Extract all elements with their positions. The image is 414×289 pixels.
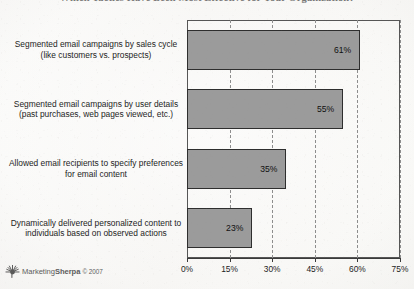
x-axis-tick bbox=[272, 258, 273, 262]
x-axis-tick bbox=[187, 258, 188, 262]
x-axis-tick-label: 30% bbox=[264, 264, 281, 274]
x-axis-tick bbox=[315, 258, 316, 262]
bar: 61% bbox=[187, 30, 360, 70]
x-axis-tick-label: 15% bbox=[221, 264, 238, 274]
category-label: Segmented email campaigns by user detail… bbox=[8, 99, 184, 120]
x-axis-tick-label: 75% bbox=[392, 264, 409, 274]
x-axis-tick-label: 0% bbox=[181, 264, 193, 274]
x-axis-tick bbox=[400, 258, 401, 262]
category-label: Segmented email campaigns by sales cycle… bbox=[8, 39, 184, 60]
bar-value-label: 35% bbox=[260, 164, 285, 174]
sunburst-icon bbox=[5, 264, 20, 279]
x-axis-tick-label: 60% bbox=[349, 264, 366, 274]
bar-value-label: 55% bbox=[317, 104, 342, 114]
x-axis-tick bbox=[230, 258, 231, 262]
bar-value-label: 23% bbox=[226, 223, 251, 233]
x-axis-tick bbox=[357, 258, 358, 262]
bar: 35% bbox=[187, 149, 286, 189]
category-label: Dynamically delivered personalized conte… bbox=[8, 218, 184, 239]
bar-value-label: 61% bbox=[334, 45, 359, 55]
x-axis bbox=[187, 258, 400, 259]
source-text: MarketingSherpa © 2007 bbox=[22, 267, 103, 276]
bar: 55% bbox=[187, 89, 343, 129]
category-label: Allowed email recipients to specify pref… bbox=[8, 158, 184, 179]
x-axis-tick-label: 45% bbox=[306, 264, 323, 274]
bar-chart: Segmented email campaigns by sales cycle… bbox=[0, 0, 414, 289]
source-attribution: MarketingSherpa © 2007 bbox=[5, 264, 103, 279]
bar: 23% bbox=[187, 208, 252, 248]
